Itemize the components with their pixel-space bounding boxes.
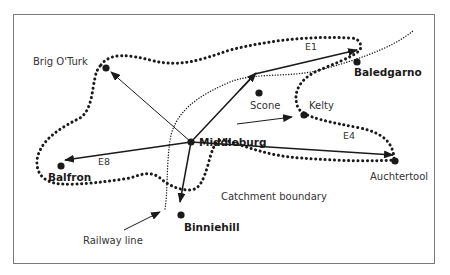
label-binniehill: Binniehill — [184, 222, 240, 233]
route-e8 — [65, 142, 191, 160]
town-dot-middleburg — [187, 138, 194, 145]
label-auchtertool: Auchtertool — [370, 172, 428, 182]
town-dot-auchtertool — [391, 157, 398, 164]
label-catchment-boundary: Catchment boundary — [221, 192, 327, 202]
route-e1-arrow-mid — [240, 73, 256, 90]
label-route-e8: E8 — [98, 157, 110, 167]
label-route-e4: E4 — [343, 131, 355, 141]
catchment-boundary — [37, 38, 394, 191]
label-middleburg: Middleburg — [199, 137, 267, 148]
town-dot-baledgarno — [353, 58, 360, 65]
label-balfron: Balfron — [48, 172, 91, 183]
route-to-kelty — [237, 117, 292, 124]
railway-pointer — [124, 212, 160, 230]
route-to-binniehill — [180, 142, 191, 202]
label-railway-line: Railway line — [83, 236, 143, 246]
town-dot-balfron — [57, 162, 64, 169]
town-dot-scone — [255, 89, 262, 96]
town-dot-kelty — [300, 111, 307, 118]
label-brig-o-turk: Brig O'Turk — [33, 57, 88, 67]
town-dot-brig-o-turk — [102, 64, 109, 71]
label-route-e1: E1 — [305, 42, 317, 52]
label-scone: Scone — [250, 101, 280, 111]
route-to-brig-o-turk — [111, 72, 191, 142]
label-kelty: Kelty — [309, 101, 334, 111]
label-baledgarno: Baledgarno — [354, 67, 422, 78]
town-dot-binniehill — [177, 211, 184, 218]
